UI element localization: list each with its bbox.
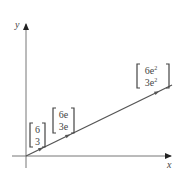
line-arrow-2 <box>65 133 71 138</box>
vector-3-bottom: 3e2 <box>145 77 157 88</box>
vector-2-bottom: 3e <box>59 121 69 132</box>
vector-diagram: y x 6 3 6e 3e 6e2 3e2 <box>0 0 180 180</box>
vector-label-2: 6e 3e <box>53 108 74 133</box>
y-axis-label: y <box>14 19 20 30</box>
vector-label-3: 6e2 3e2 <box>137 64 169 88</box>
vector-label-1: 6 3 <box>30 123 45 147</box>
vector-3-top: 6e2 <box>145 65 157 76</box>
vector-1-top: 6 <box>35 124 40 135</box>
line-arrow-3 <box>154 90 160 95</box>
ray-line <box>26 85 172 156</box>
vector-1-bottom: 3 <box>35 136 40 147</box>
vector-2-top: 6e <box>59 109 69 120</box>
x-axis-label: x <box>166 159 172 170</box>
